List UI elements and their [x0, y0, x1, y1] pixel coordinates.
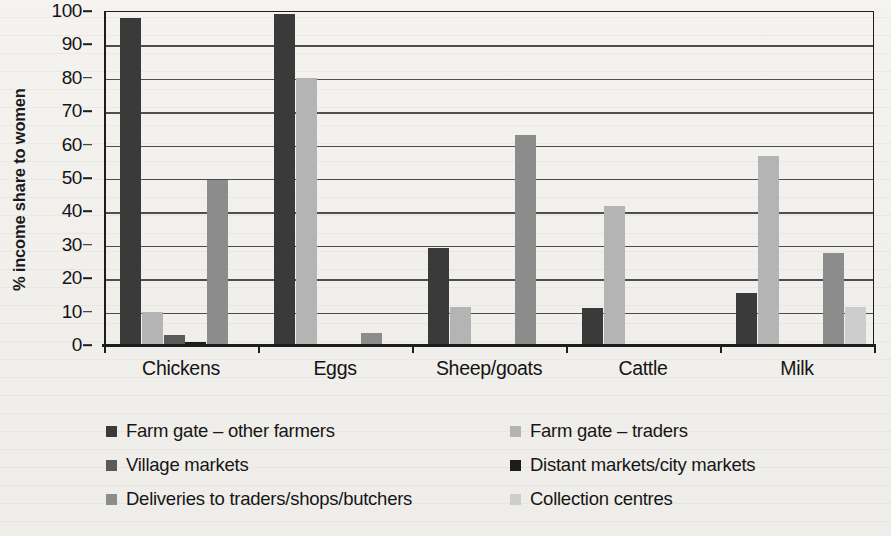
bar — [604, 206, 625, 345]
y-tick-label: 50 — [62, 167, 82, 189]
x-axis-line — [102, 344, 876, 347]
legend-item[interactable]: Collection centres — [510, 488, 876, 510]
legend-item[interactable]: Deliveries to traders/shops/butchers — [106, 488, 510, 510]
legend-item[interactable]: Farm gate – traders — [510, 420, 876, 442]
x-category-label: Sheep/goats — [436, 357, 542, 380]
bar — [845, 307, 866, 345]
legend-item[interactable]: Farm gate – other farmers — [106, 420, 510, 442]
y-tick-label: 30 — [62, 234, 82, 256]
bar — [428, 248, 449, 345]
bar — [736, 293, 757, 345]
y-tick-label: 0 — [72, 334, 82, 356]
bar-group — [568, 12, 722, 345]
y-tick-mark — [83, 177, 92, 179]
y-axis-label: % income share to women — [6, 40, 32, 340]
x-tick-mark — [720, 344, 722, 353]
y-tick-mark — [83, 344, 92, 346]
y-tick-mark — [83, 211, 92, 213]
legend-label: Village markets — [126, 454, 248, 476]
x-tick-mark — [566, 344, 568, 353]
x-tick-mark — [104, 344, 106, 353]
y-tick-mark — [83, 10, 92, 12]
bar — [582, 308, 603, 345]
bar — [823, 253, 844, 345]
y-tick-label: 70 — [62, 100, 82, 122]
legend-label: Deliveries to traders/shops/butchers — [126, 488, 412, 510]
bar-group — [260, 12, 414, 345]
legend-swatch-icon — [510, 460, 521, 471]
x-category-label: Chickens — [142, 357, 220, 380]
y-tick-label: 20 — [62, 267, 82, 289]
legend-swatch-icon — [106, 494, 117, 505]
y-tick-mark — [83, 44, 92, 46]
legend-label: Distant markets/city markets — [530, 454, 755, 476]
x-category-label: Cattle — [618, 357, 667, 380]
bar-group — [414, 12, 568, 345]
y-tick-label: 80 — [62, 67, 82, 89]
bar — [120, 18, 141, 345]
bar — [450, 307, 471, 345]
legend-swatch-icon — [106, 460, 117, 471]
bar — [207, 180, 228, 345]
bar-group — [106, 12, 260, 345]
plot-area — [104, 11, 874, 345]
bar — [515, 135, 536, 345]
y-tick-mark — [83, 244, 92, 246]
legend-item[interactable]: Distant markets/city markets — [510, 454, 876, 476]
grouped-bar-chart: % income share to women 0102030405060708… — [0, 0, 891, 536]
legend-label: Farm gate – traders — [530, 420, 688, 442]
y-tick-mark — [83, 277, 92, 279]
y-tick-mark — [83, 110, 92, 112]
legend-label: Farm gate – other farmers — [126, 420, 335, 442]
chart-legend: Farm gate – other farmersFarm gate – tra… — [106, 414, 876, 522]
legend-swatch-icon — [510, 494, 521, 505]
y-tick-label: 100 — [51, 0, 82, 22]
bar — [758, 156, 779, 345]
bar — [274, 14, 295, 345]
x-tick-mark — [258, 344, 260, 353]
legend-item[interactable]: Village markets — [106, 454, 510, 476]
legend-swatch-icon — [510, 426, 521, 437]
bar-group — [722, 12, 876, 345]
y-tick-label: 40 — [62, 200, 82, 222]
bar — [142, 312, 163, 345]
y-tick-label: 90 — [62, 33, 82, 55]
y-tick-mark — [83, 144, 92, 146]
y-tick-mark — [83, 311, 92, 313]
x-category-label: Milk — [780, 357, 813, 380]
x-tick-mark — [412, 344, 414, 353]
legend-label: Collection centres — [530, 488, 673, 510]
y-tick-label: 60 — [62, 134, 82, 156]
x-tick-mark — [874, 344, 876, 353]
bar — [296, 78, 317, 345]
x-category-label: Eggs — [313, 357, 356, 380]
y-axis-ticks: 0102030405060708090100 — [30, 0, 92, 360]
y-tick-mark — [83, 77, 92, 79]
y-tick-label: 10 — [62, 301, 82, 323]
legend-swatch-icon — [106, 426, 117, 437]
plot-inner — [106, 12, 873, 345]
